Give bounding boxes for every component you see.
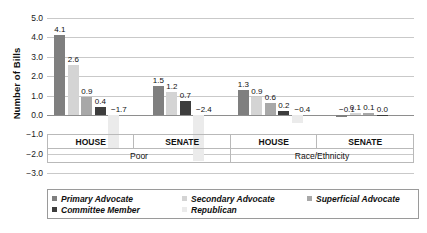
bar	[292, 115, 303, 123]
y-tick-label: 2.0	[12, 71, 43, 81]
legend-label-secondary-advocate: Secondary Advocate	[191, 194, 275, 204]
bar-value-label: 0.7	[172, 91, 199, 100]
y-tick-label: 4.0	[12, 32, 43, 42]
y-tick-label: −1.0	[12, 129, 43, 139]
cat-chamber-3: SENATE	[317, 135, 414, 149]
legend-item-superficial-advocate: Superficial Advocate	[307, 194, 400, 204]
legend-swatch-committee-member	[52, 207, 57, 212]
legend-row-2: Committee Member Republican	[52, 204, 414, 215]
bar-value-label: 2.6	[60, 55, 87, 64]
legend-label-superficial-advocate: Superficial Advocate	[316, 194, 400, 204]
legend-row-1: Primary Advocate Secondary Advocate Supe…	[52, 193, 414, 204]
chart-legend: Primary Advocate Secondary Advocate Supe…	[47, 189, 419, 219]
category-row-chambers: HOUSE SENATE HOUSE SENATE	[48, 135, 414, 149]
bar	[336, 115, 347, 117]
cat-topic-race-ethnicity: Race/Ethnicity	[230, 149, 413, 163]
legend-label-primary-advocate: Primary Advocate	[61, 194, 133, 204]
bar	[180, 101, 191, 115]
bar-value-label: −1.7	[105, 105, 132, 114]
legend-item-committee-member: Committee Member	[52, 205, 182, 215]
cat-chamber-0: HOUSE	[48, 135, 134, 149]
y-tick-label: 5.0	[12, 13, 43, 23]
bar	[350, 113, 361, 115]
legend-swatch-republican	[182, 207, 187, 212]
cat-chamber-1: SENATE	[134, 135, 231, 149]
bar	[95, 107, 106, 115]
y-tick-label: 1.0	[12, 91, 43, 101]
bar-value-label: 0.0	[369, 105, 396, 114]
legend-label-committee-member: Committee Member	[61, 205, 140, 215]
y-tick-label: 0.0	[12, 110, 43, 120]
bar-value-label: 1.2	[158, 82, 185, 91]
gridline--3.0	[47, 173, 414, 174]
category-row-topics: Poor Race/Ethnicity	[48, 149, 414, 163]
legend-swatch-superficial-advocate	[307, 196, 312, 201]
cat-topic-poor: Poor	[48, 149, 231, 163]
cat-chamber-2: HOUSE	[230, 135, 316, 149]
bar	[278, 111, 289, 115]
bar-chart: Number of Bills 5.04.03.02.01.00.0−1.0−2…	[0, 0, 427, 233]
legend-label-republican: Republican	[191, 205, 237, 215]
bar	[377, 115, 388, 116]
y-tick-label: −3.0	[12, 168, 43, 178]
category-axis-table: HOUSE SENATE HOUSE SENATE Poor Race/Ethn…	[47, 134, 414, 163]
bar-value-label: −2.4	[190, 105, 217, 114]
legend-item-primary-advocate: Primary Advocate	[52, 194, 182, 204]
legend-item-secondary-advocate: Secondary Advocate	[182, 194, 307, 204]
legend-swatch-primary-advocate	[52, 196, 57, 201]
bar-value-label: 4.1	[46, 25, 73, 34]
bar-value-label: 0.9	[73, 87, 100, 96]
y-tick-label: 3.0	[12, 52, 43, 62]
bar-value-label: −0.4	[289, 105, 316, 114]
legend-item-republican: Republican	[182, 205, 307, 215]
legend-swatch-secondary-advocate	[182, 196, 187, 201]
y-tick-label: −2.0	[12, 149, 43, 159]
bar	[54, 35, 65, 114]
